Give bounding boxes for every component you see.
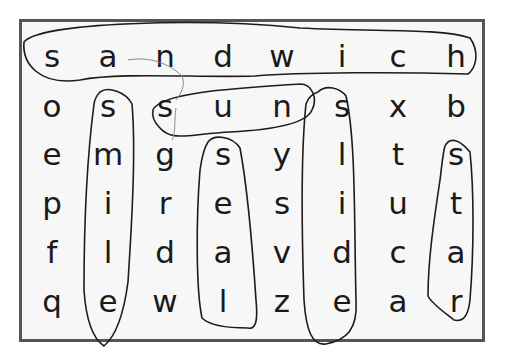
- grid-letter: s: [145, 86, 185, 126]
- grid-letter: z: [262, 281, 302, 321]
- grid-letter: i: [88, 183, 128, 223]
- grid-letter: s: [262, 183, 302, 223]
- grid-letter: q: [32, 281, 72, 321]
- grid-letter: e: [322, 281, 362, 321]
- grid-letter: i: [322, 183, 362, 223]
- grid-letter: a: [378, 281, 418, 321]
- grid-letter: l: [88, 232, 128, 272]
- grid-letter: l: [322, 134, 362, 174]
- grid-letter: s: [88, 86, 128, 126]
- grid-letter: m: [88, 134, 128, 174]
- grid-letter: h: [436, 36, 476, 76]
- grid-letter: f: [32, 232, 72, 272]
- grid-letter: s: [322, 86, 362, 126]
- grid-letter: p: [32, 183, 72, 223]
- grid-letter: c: [378, 232, 418, 272]
- grid-letter: n: [145, 36, 185, 76]
- grid-letter: c: [378, 36, 418, 76]
- grid-letter: n: [262, 86, 302, 126]
- grid-letter: a: [88, 36, 128, 76]
- grid-letter: s: [32, 36, 72, 76]
- grid-letter: e: [203, 183, 243, 223]
- grid-letter: r: [145, 183, 185, 223]
- grid-letter: y: [262, 134, 302, 174]
- grid-letter: s: [436, 134, 476, 174]
- grid-letter: e: [88, 281, 128, 321]
- grid-letter: o: [32, 86, 72, 126]
- grid-letter: w: [145, 281, 185, 321]
- grid-letter: l: [203, 281, 243, 321]
- grid-letter: d: [322, 232, 362, 272]
- grid-letter: a: [436, 232, 476, 272]
- grid-letter: i: [322, 36, 362, 76]
- grid-letter: d: [203, 36, 243, 76]
- grid-letter: a: [203, 232, 243, 272]
- grid-letter: v: [262, 232, 302, 272]
- grid-letter: t: [378, 134, 418, 174]
- grid-letter: x: [378, 86, 418, 126]
- grid-letter: t: [436, 183, 476, 223]
- grid-letter: u: [203, 86, 243, 126]
- grid-letter: e: [32, 134, 72, 174]
- grid-letter: d: [145, 232, 185, 272]
- grid-letter: s: [203, 134, 243, 174]
- grid-letter: g: [145, 134, 185, 174]
- grid-letter: b: [436, 86, 476, 126]
- grid-letter: w: [262, 36, 302, 76]
- grid-letter: u: [378, 183, 418, 223]
- grid-letter: r: [436, 281, 476, 321]
